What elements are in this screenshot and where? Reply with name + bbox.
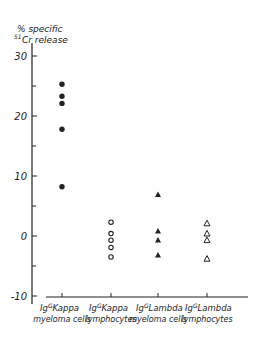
x-category-label: IgGKappamyeloma cells: [33, 302, 91, 324]
filled-circle-marker: [59, 82, 64, 87]
open-triangle-marker: [204, 237, 210, 243]
y-tick-label: 30: [14, 51, 27, 62]
svg-text:IgGLambda: IgGLambda: [185, 302, 232, 313]
open-triangle-marker: [204, 220, 210, 226]
x-category-label: IgGLambdalymphocytes: [181, 302, 232, 324]
filled-circle-marker: [59, 94, 64, 99]
filled-circle-marker: [59, 101, 64, 106]
filled-triangle-marker: [155, 237, 161, 243]
y-axis-title-line2: 51 Cr release: [14, 33, 68, 45]
filled-triangle-marker: [155, 191, 161, 197]
data-points: [59, 82, 210, 262]
open-circle-marker: [109, 220, 113, 224]
open-circle-marker: [109, 255, 113, 259]
svg-text:IgGKappa: IgGKappa: [89, 302, 128, 313]
open-circle-marker: [109, 238, 113, 242]
y-axis-ticks: 3020100-10: [11, 51, 37, 302]
svg-text:IgGKappa: IgGKappa: [40, 302, 79, 313]
y-tick-label: 10: [14, 171, 27, 182]
open-triangle-marker: [204, 256, 210, 262]
open-triangle-marker: [204, 230, 210, 236]
y-tick-label: -10: [11, 291, 27, 302]
open-circle-marker: [109, 245, 113, 249]
svg-text:Cr release: Cr release: [22, 35, 68, 45]
y-tick-label: 20: [14, 111, 27, 122]
svg-text:51: 51: [14, 33, 22, 40]
svg-text:myeloma cells: myeloma cells: [33, 315, 91, 324]
open-circle-marker: [109, 231, 113, 235]
scatter-chart: % specific 51 Cr release 3020100-10 IgGK…: [0, 0, 255, 342]
svg-text:IgGLambda: IgGLambda: [136, 302, 183, 313]
x-axis-category-labels: IgGKappamyeloma cellsIgGKappalymphocytes…: [33, 302, 232, 324]
y-axis-title-line1: % specific: [17, 24, 63, 34]
svg-text:lymphocytes: lymphocytes: [181, 315, 232, 324]
filled-circle-marker: [59, 127, 64, 132]
svg-text:myeloma cells: myeloma cells: [129, 315, 187, 324]
y-tick-label: 0: [21, 231, 27, 242]
filled-triangle-marker: [155, 252, 161, 258]
x-category-label: IgGLambdamyeloma cells: [129, 302, 187, 324]
filled-triangle-marker: [155, 228, 161, 234]
filled-circle-marker: [59, 184, 64, 189]
